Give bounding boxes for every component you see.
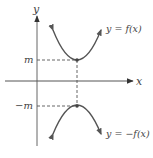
graph-canvas: y x m −m y = f(x) y = −f(x) [0, 0, 153, 158]
vertex-point-neg-f [75, 104, 79, 108]
vertex-point-f [75, 58, 79, 62]
curve-neg-f [53, 105, 101, 134]
x-axis-label: x [136, 75, 143, 88]
m-label: m [24, 54, 33, 65]
curve-neg-f-label: y = −f(x) [105, 128, 150, 139]
y-axis-label: y [32, 3, 40, 16]
neg-m-label: −m [15, 100, 33, 111]
reflection-diagram: y x m −m y = f(x) y = −f(x) [0, 0, 153, 158]
curve-f [53, 30, 101, 60]
curve-f-label: y = f(x) [105, 23, 142, 34]
